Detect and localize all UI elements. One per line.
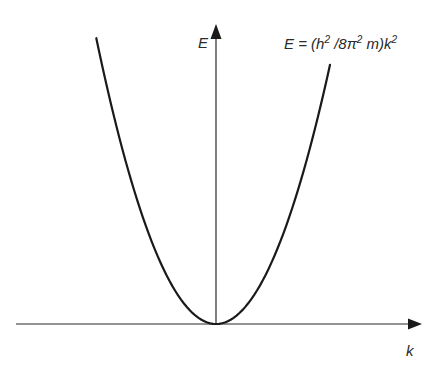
e-axis-arrowhead xyxy=(211,24,222,39)
dispersion-diagram: E k E = (h2 /8π2 m)k2 xyxy=(0,0,442,373)
equation-part: m)k xyxy=(362,35,393,52)
equation-part: E = (h xyxy=(284,35,324,52)
parabola-curve xyxy=(96,38,330,324)
equation-part: /8π xyxy=(330,35,358,52)
e-axis-label: E xyxy=(198,34,209,51)
equation-annotation: E = (h2 /8π2 m)k2 xyxy=(284,34,397,52)
k-axis-arrowhead xyxy=(408,319,422,330)
equation-superscript: 2 xyxy=(390,34,397,45)
k-axis-label: k xyxy=(406,342,415,359)
